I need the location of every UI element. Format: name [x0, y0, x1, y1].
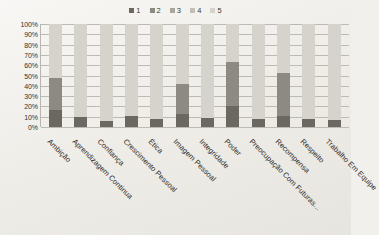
bar-segment-series-1 — [150, 119, 163, 127]
bar-group — [41, 24, 349, 127]
y-axis-tick-label: 0% — [28, 124, 38, 131]
gridline — [41, 127, 349, 128]
bar-segment-series-5 — [150, 24, 163, 119]
category-label: Poder — [223, 137, 244, 158]
y-axis-tick-label: 20% — [24, 103, 38, 110]
stacked-bar[interactable] — [277, 24, 290, 127]
legend-item-4[interactable]: 4 — [190, 7, 201, 15]
bar-segment-series-1 — [49, 110, 62, 128]
bar-segment-series-1 — [226, 106, 239, 127]
y-axis-tick-label: 40% — [24, 82, 38, 89]
plot-area — [40, 24, 349, 127]
stacked-bar[interactable] — [100, 24, 113, 127]
bar-segment-series-5 — [302, 24, 315, 119]
bar-segment-series-5 — [125, 24, 138, 116]
category-axis-labels: AmbiçãoAprendizagem ContinuaConfiançaCre… — [40, 137, 351, 235]
category-label: Trabalho Em Equipe — [324, 137, 379, 192]
legend-swatch-icon — [170, 8, 175, 13]
bar-segment-series-5 — [277, 24, 290, 73]
legend-item-3[interactable]: 3 — [170, 7, 181, 15]
bar-segment-series-5 — [252, 24, 265, 119]
bar-segment-series-1 — [328, 120, 341, 127]
bar-segment-series-1 — [201, 118, 214, 127]
bar-segment-series-1 — [125, 116, 138, 127]
y-axis-tick-label: 80% — [24, 41, 38, 48]
y-axis-tick-label: 50% — [24, 72, 38, 79]
y-axis: 100%90%80%70%60%50%40%30%20%10%0% — [6, 24, 38, 127]
legend-swatch-icon — [190, 8, 195, 13]
stacked-bar[interactable] — [49, 24, 62, 127]
bar-segment-series-5 — [100, 24, 113, 121]
bar-segment-series-5 — [74, 24, 87, 117]
bar-segment-series-5 — [49, 24, 62, 78]
legend-item-1[interactable]: 1 — [129, 7, 140, 15]
stacked-bar[interactable] — [201, 24, 214, 127]
stacked-bar[interactable] — [328, 24, 341, 127]
bar-segment-series-1 — [302, 119, 315, 127]
y-axis-tick-label: 30% — [24, 93, 38, 100]
chart-legend: 12345 — [0, 7, 351, 15]
bar-segment-series-1 — [100, 121, 113, 127]
legend-item-5[interactable]: 5 — [210, 7, 221, 15]
legend-label: 1 — [136, 7, 140, 15]
chart-plot-wrapper: 100%90%80%70%60%50%40%30%20%10%0% — [0, 24, 351, 136]
y-axis-tick-label: 60% — [24, 62, 38, 69]
stacked-bar[interactable] — [252, 24, 265, 127]
bar-segment-series-5 — [328, 24, 341, 120]
bar-segment-series-2 — [49, 78, 62, 110]
category-label: Ética — [147, 137, 165, 155]
category-label: Ambição — [45, 137, 72, 164]
bar-segment-series-1 — [74, 117, 87, 127]
bar-segment-series-5 — [176, 24, 189, 84]
bar-segment-series-1 — [277, 116, 290, 127]
legend-label: 3 — [177, 7, 181, 15]
y-axis-tick-label: 100% — [20, 21, 38, 28]
bar-segment-series-5 — [226, 24, 239, 62]
legend-swatch-icon — [210, 8, 215, 13]
legend-swatch-icon — [129, 8, 134, 13]
bar-segment-series-5 — [201, 24, 214, 118]
legend-label: 4 — [197, 7, 201, 15]
stacked-bar[interactable] — [150, 24, 163, 127]
stacked-bar[interactable] — [125, 24, 138, 127]
bar-segment-series-1 — [252, 119, 265, 127]
y-axis-tick-label: 10% — [24, 113, 38, 120]
stacked-bar[interactable] — [74, 24, 87, 127]
bar-segment-series-2 — [176, 84, 189, 114]
stacked-bar[interactable] — [226, 24, 239, 127]
bar-segment-series-1 — [176, 114, 189, 127]
stacked-bar[interactable] — [176, 24, 189, 127]
bar-segment-series-2 — [226, 62, 239, 106]
legend-swatch-icon — [150, 8, 155, 13]
stacked-bar[interactable] — [302, 24, 315, 127]
y-axis-tick-label: 70% — [24, 51, 38, 58]
legend-item-2[interactable]: 2 — [150, 7, 161, 15]
y-axis-tick-label: 90% — [24, 31, 38, 38]
bar-segment-series-2 — [277, 73, 290, 115]
legend-label: 5 — [217, 7, 221, 15]
legend-label: 2 — [157, 7, 161, 15]
